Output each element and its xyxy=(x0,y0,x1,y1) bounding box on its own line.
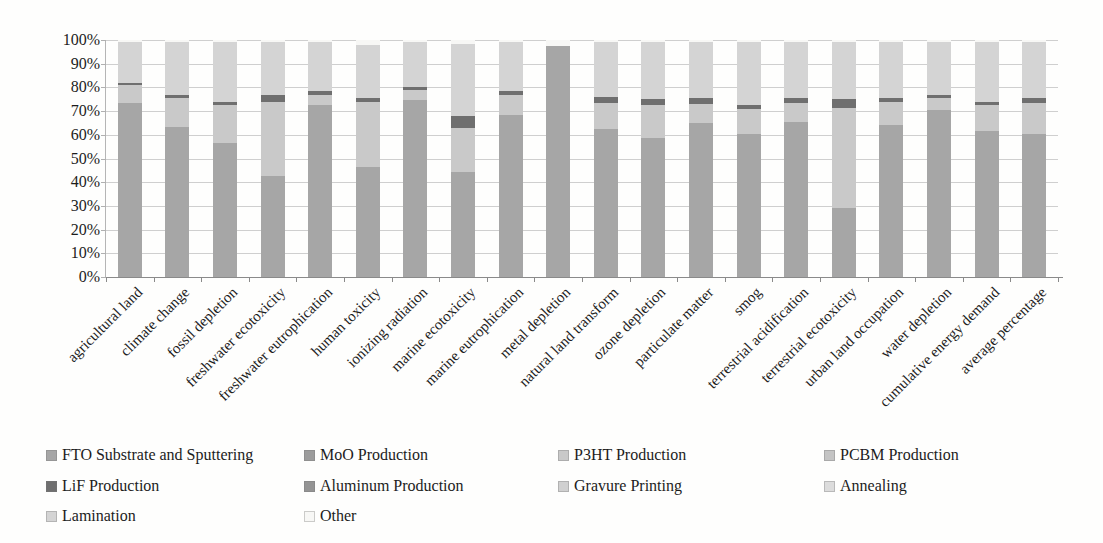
segment-LiF-Production xyxy=(261,95,285,102)
segment-Lamination xyxy=(784,42,808,98)
segment-Other xyxy=(451,40,475,44)
y-tick-mark xyxy=(101,111,106,112)
y-tick-label-70: 70% xyxy=(42,102,100,120)
bar-terrestrial-ecotoxicity xyxy=(832,40,856,277)
bar-average-percentage xyxy=(1022,40,1046,277)
segment-LiF-Production xyxy=(165,95,189,99)
segment-LiF-Production xyxy=(975,102,999,106)
segment-FTO-Substrate-and-Sputtering xyxy=(451,172,475,277)
stacked-bar-chart-figure: 100%90%80%70%60%50%40%30%20%10%0% agricu… xyxy=(0,0,1103,543)
segment-Other xyxy=(403,40,427,42)
segment-LiF-Production xyxy=(451,116,475,128)
x-tick-mark xyxy=(106,278,107,282)
segment-LiF-Production xyxy=(356,98,380,102)
gridline-100 xyxy=(106,40,1058,41)
bar-cumulative-energy-demand xyxy=(975,40,999,277)
segment-P3HT-Production xyxy=(451,128,475,172)
legend-item-P3HT-Production: P3HT Production xyxy=(558,446,686,464)
segment-Lamination xyxy=(689,42,713,98)
segment-P3HT-Production xyxy=(784,103,808,122)
bar-agricultural-land xyxy=(118,40,142,277)
legend-item-Lamination: Lamination xyxy=(46,507,136,525)
segment-FTO-Substrate-and-Sputtering xyxy=(165,127,189,277)
segment-FTO-Substrate-and-Sputtering xyxy=(975,131,999,277)
segment-LiF-Production xyxy=(308,91,332,95)
bar-marine-ecotoxicity xyxy=(451,40,475,277)
legend-swatch-icon xyxy=(824,450,835,461)
legend-swatch-icon xyxy=(46,450,57,461)
segment-FTO-Substrate-and-Sputtering xyxy=(499,115,523,277)
segment-FTO-Substrate-and-Sputtering xyxy=(213,143,237,277)
gridline-10 xyxy=(106,253,1058,254)
segment-Other xyxy=(975,40,999,42)
legend-label: FTO Substrate and Sputtering xyxy=(62,446,253,464)
segment-Other xyxy=(879,40,903,42)
y-tick-mark xyxy=(101,64,106,65)
segment-Lamination xyxy=(118,42,142,82)
segment-FTO-Substrate-and-Sputtering xyxy=(356,167,380,277)
bar-particulate-matter xyxy=(689,40,713,277)
legend-item-Aluminum-Production: Aluminum Production xyxy=(304,477,464,495)
segment-Other xyxy=(641,40,665,42)
x-tick-mark xyxy=(154,278,155,282)
bar-ionizing-radiation xyxy=(403,40,427,277)
y-tick-mark xyxy=(101,159,106,160)
segment-Lamination xyxy=(403,42,427,87)
y-tick-mark xyxy=(101,253,106,254)
segment-P3HT-Production xyxy=(927,98,951,110)
segment-Other xyxy=(689,40,713,42)
segment-FTO-Substrate-and-Sputtering xyxy=(546,46,570,277)
segment-Lamination xyxy=(308,42,332,91)
segment-LiF-Production xyxy=(737,105,761,109)
gridline-40 xyxy=(106,182,1058,183)
segment-LiF-Production xyxy=(689,98,713,104)
segment-Lamination xyxy=(879,42,903,98)
segment-P3HT-Production xyxy=(832,108,856,209)
legend-item-Annealing: Annealing xyxy=(824,477,907,495)
x-tick-mark xyxy=(915,278,916,282)
segment-Other xyxy=(356,40,380,45)
bar-ozone-depletion xyxy=(641,40,665,277)
legend-label: Gravure Printing xyxy=(574,477,682,495)
segment-Lamination xyxy=(499,42,523,91)
legend-swatch-icon xyxy=(46,511,57,522)
segment-Other xyxy=(927,40,951,42)
segment-Lamination xyxy=(1022,42,1046,98)
segment-P3HT-Production xyxy=(737,109,761,134)
legend-swatch-icon xyxy=(46,481,57,492)
segment-P3HT-Production xyxy=(118,85,142,103)
segment-Other xyxy=(165,40,189,42)
legend-label: MoO Production xyxy=(320,446,428,464)
segment-P3HT-Production xyxy=(213,105,237,143)
legend-swatch-icon xyxy=(304,481,315,492)
gridline-20 xyxy=(106,230,1058,231)
legend-swatch-icon xyxy=(558,450,569,461)
legend-swatch-icon xyxy=(558,481,569,492)
segment-Other xyxy=(594,40,618,42)
x-tick-mark xyxy=(630,278,631,282)
segment-Other xyxy=(308,40,332,42)
segment-P3HT-Production xyxy=(403,90,427,101)
y-tick-label-90: 90% xyxy=(42,55,100,73)
x-tick-mark xyxy=(963,278,964,282)
legend-swatch-icon xyxy=(824,481,835,492)
segment-P3HT-Production xyxy=(879,102,903,126)
segment-FTO-Substrate-and-Sputtering xyxy=(784,122,808,277)
segment-LiF-Production xyxy=(784,98,808,103)
x-tick-mark xyxy=(296,278,297,282)
segment-Lamination xyxy=(451,44,475,116)
segment-P3HT-Production xyxy=(594,103,618,129)
x-tick-mark xyxy=(344,278,345,282)
bar-terrestrial-acidification xyxy=(784,40,808,277)
legend-item-PCBM-Production: PCBM Production xyxy=(824,446,959,464)
segment-Other xyxy=(499,40,523,42)
segment-P3HT-Production xyxy=(975,105,999,131)
bar-water-depletion xyxy=(927,40,951,277)
legend-item-FTO-Substrate-and-Sputtering: FTO Substrate and Sputtering xyxy=(46,446,253,464)
bar-marine-eutrophication xyxy=(499,40,523,277)
segment-LiF-Production xyxy=(641,99,665,105)
segment-Lamination xyxy=(737,42,761,105)
segment-Lamination xyxy=(165,42,189,94)
x-tick-mark xyxy=(1010,278,1011,282)
segment-Other xyxy=(213,40,237,42)
